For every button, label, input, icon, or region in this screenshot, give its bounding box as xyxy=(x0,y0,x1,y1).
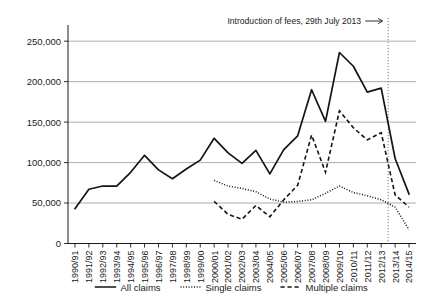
series-line-all-claims xyxy=(75,53,409,209)
x-tick-label: 2001/02 xyxy=(223,251,233,284)
chart-container: 050,000100,000150,000200,000250,000 1990… xyxy=(0,0,433,303)
x-tick-label: 2011/12 xyxy=(363,251,373,283)
x-tick-label: 2005/06 xyxy=(279,251,289,284)
line-chart: 050,000100,000150,000200,000250,000 1990… xyxy=(0,0,433,303)
fee-annotation: Introduction of fees, 29th July 2013 xyxy=(227,16,388,244)
y-tick-label: 150,000 xyxy=(27,117,61,128)
x-tick-label: 1992/93 xyxy=(98,251,108,284)
x-tick-label: 1997/98 xyxy=(168,251,178,284)
x-tick-label: 2013/14 xyxy=(391,251,401,284)
x-tick-label: 1991/92 xyxy=(84,251,94,284)
x-tick-label: 2007/08 xyxy=(307,251,317,284)
y-axis-ticks: 050,000100,000150,000200,000250,000 xyxy=(27,36,68,249)
chart-legend: All claimsSingle claimsMultiple claims xyxy=(96,282,369,293)
x-tick-label: 2014/15 xyxy=(404,251,414,284)
x-tick-label: 1993/94 xyxy=(112,251,122,284)
x-tick-label: 1995/96 xyxy=(140,251,150,284)
x-tick-label: 1999/00 xyxy=(196,251,206,284)
y-tick-label: 250,000 xyxy=(27,36,61,47)
fee-annotation-label: Introduction of fees, 29th July 2013 xyxy=(227,16,361,26)
legend-label-multiple-claims: Multiple claims xyxy=(306,282,369,293)
y-tick-label: 200,000 xyxy=(27,76,61,87)
legend-label-single-claims: Single claims xyxy=(206,282,262,293)
x-tick-label: 1996/97 xyxy=(154,251,164,284)
x-tick-label: 2006/07 xyxy=(293,251,303,284)
y-tick-label: 50,000 xyxy=(32,197,61,208)
x-tick-label: 2008/09 xyxy=(321,251,331,284)
y-tick-label: 0 xyxy=(56,238,61,249)
x-tick-label: 2010/11 xyxy=(349,251,359,283)
gridlines xyxy=(68,41,416,203)
x-tick-label: 2003/04 xyxy=(251,251,261,284)
series-line-single-claims xyxy=(214,180,409,229)
legend-label-all-claims: All claims xyxy=(121,282,161,293)
x-tick-label: 2004/05 xyxy=(265,251,275,284)
x-tick-label: 1990/91 xyxy=(70,251,80,284)
y-tick-label: 100,000 xyxy=(27,157,61,168)
x-tick-label: 2002/03 xyxy=(237,251,247,284)
x-tick-label: 2009/10 xyxy=(335,251,345,284)
x-axis-ticks: 1990/911991/921992/931993/941994/951995/… xyxy=(70,244,414,284)
x-tick-label: 1998/99 xyxy=(182,251,192,284)
x-tick-label: 1994/95 xyxy=(126,251,136,284)
x-tick-label: 2012/13 xyxy=(377,251,387,284)
x-tick-label: 2000/01 xyxy=(210,251,220,284)
